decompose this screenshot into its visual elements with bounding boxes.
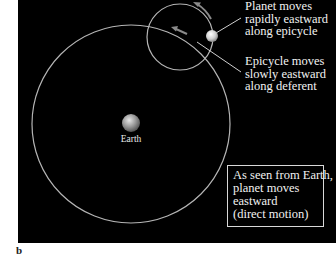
earth-label: Earth <box>114 134 148 144</box>
panel-letter-label: b <box>16 244 22 256</box>
planet-label-line: Planet moves <box>245 0 328 13</box>
epicycle-circle <box>147 4 213 70</box>
planet-label-line: along epicycle <box>245 25 328 38</box>
epicycle-label-line: Epicycle moves <box>245 55 326 68</box>
planet-pointer-line <box>216 18 241 33</box>
direct-motion-info-box: As seen from Earth, planet moves eastwar… <box>227 165 324 227</box>
deferent-motion-arrow-icon <box>171 26 187 34</box>
info-box-line: (direct motion) <box>233 208 323 221</box>
epicycle-motion-arrow-icon <box>193 2 211 19</box>
earth-icon <box>122 114 140 132</box>
planet-icon <box>206 30 218 42</box>
epicycle-label-line: along deferent <box>245 80 326 93</box>
epicycle-motion-label: Epicycle moves slowly eastward along def… <box>245 55 326 93</box>
diagram-panel: Earth Planet moves rapidly eastward alon… <box>18 0 336 243</box>
planet-motion-label: Planet moves rapidly eastward along epic… <box>245 0 328 38</box>
